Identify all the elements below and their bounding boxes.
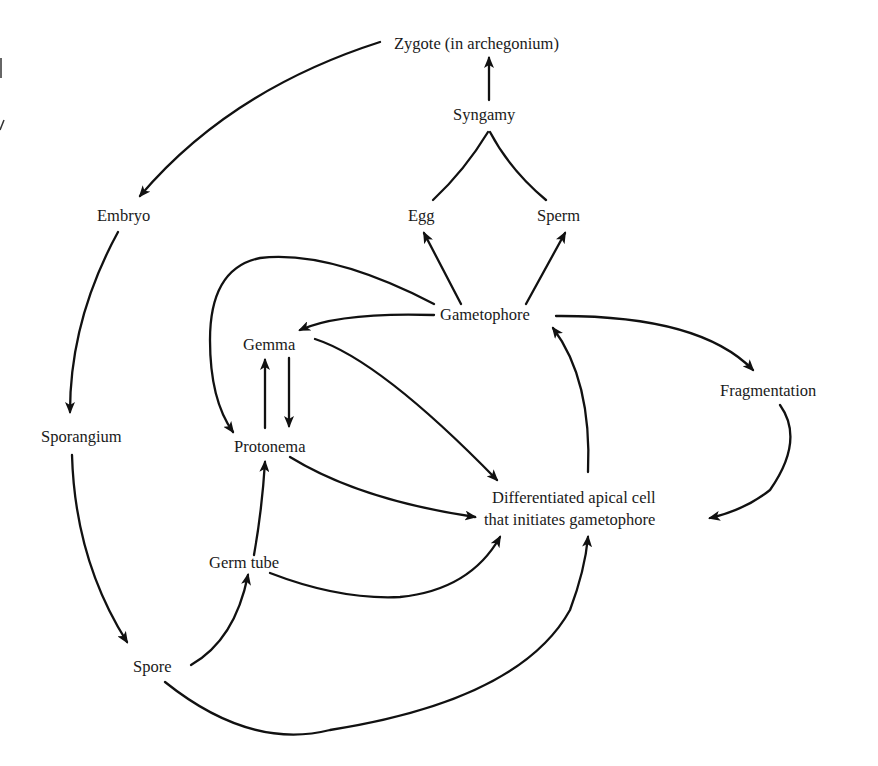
edge-sperm-syngamy bbox=[490, 132, 546, 200]
node-fragmentation: Fragmentation bbox=[720, 381, 816, 400]
scan-artifacts bbox=[0, 58, 4, 130]
node-sporangium: Sporangium bbox=[41, 427, 122, 446]
edge-sporangium-spore bbox=[72, 455, 127, 642]
node-spore: Spore bbox=[133, 657, 172, 676]
node-sperm: Sperm bbox=[537, 206, 580, 225]
edge-gametophore-gemma bbox=[300, 315, 434, 330]
edges bbox=[70, 42, 790, 735]
edge-apical-gametophore bbox=[553, 328, 588, 472]
edge-germtube-apical bbox=[270, 537, 500, 597]
edge-gametophore-sperm bbox=[526, 233, 565, 304]
node-apical-line1: Differentiated apical cell bbox=[492, 488, 656, 507]
node-apical-line2: that initiates gametophore bbox=[484, 510, 655, 529]
edge-zygote-embryo bbox=[140, 42, 380, 196]
edge-protonema-apical bbox=[290, 457, 475, 517]
edge-fragmentation-apical bbox=[710, 405, 790, 518]
edge-egg-syngamy bbox=[433, 132, 488, 200]
node-syngamy: Syngamy bbox=[453, 105, 516, 124]
node-protonema: Protonema bbox=[234, 437, 306, 456]
node-embryo: Embryo bbox=[97, 206, 150, 225]
edge-germtube-protonema bbox=[254, 462, 265, 555]
nodes: Zygote (in archegonium) Syngamy Egg Sper… bbox=[41, 34, 816, 676]
edge-gemma-apical bbox=[315, 339, 497, 480]
node-zygote: Zygote (in archegonium) bbox=[394, 34, 559, 53]
moss-life-cycle-diagram: Zygote (in archegonium) Syngamy Egg Sper… bbox=[0, 0, 878, 766]
node-gametophore: Gametophore bbox=[440, 305, 530, 324]
edge-gametophore-egg bbox=[424, 233, 461, 304]
edge-embryo-sporangium bbox=[70, 232, 118, 412]
node-egg: Egg bbox=[408, 206, 435, 225]
node-gemma: Gemma bbox=[243, 335, 296, 354]
edge-spore-germtube bbox=[191, 575, 248, 665]
node-germ-tube: Germ tube bbox=[209, 553, 279, 572]
edge-gametophore-fragmentation bbox=[556, 316, 753, 370]
